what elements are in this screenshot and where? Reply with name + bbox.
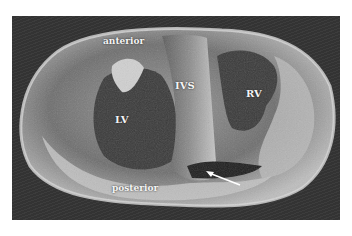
label-lv: LV xyxy=(115,114,129,125)
label-anterior: anterior xyxy=(103,36,144,46)
label-rv: RV xyxy=(246,88,262,99)
heart-cross-section-photo: anterior IVS RV LV posterior xyxy=(12,16,340,220)
label-ivs: IVS xyxy=(175,80,195,91)
label-posterior: posterior xyxy=(112,183,158,193)
heart-specimen-graphic xyxy=(12,16,340,220)
